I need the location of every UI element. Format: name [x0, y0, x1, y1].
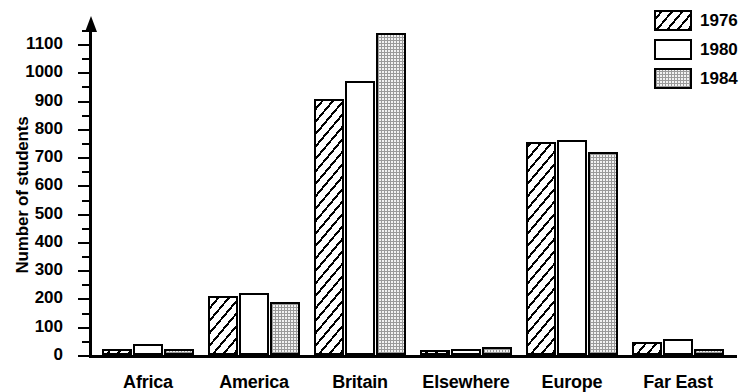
legend-label-1984: 1984 — [700, 69, 738, 89]
y-tick-minor-1050 — [82, 58, 90, 60]
y-tick-label-1000: 1000 — [25, 62, 63, 82]
y-tick-600: 600 — [78, 185, 90, 187]
legend-swatch-1976 — [654, 10, 692, 31]
bar-america-1976 — [208, 296, 238, 355]
legend-swatch-1980 — [654, 39, 692, 60]
y-tick-minor-650 — [82, 171, 90, 173]
y-tick-minor-550 — [82, 200, 90, 202]
y-tick-label-100: 100 — [35, 317, 63, 337]
bar-group-africa — [102, 14, 194, 357]
y-axis-title: Number of students — [13, 80, 33, 310]
y-tick-1000: 1000 — [78, 72, 90, 74]
y-tick-800: 800 — [78, 129, 90, 131]
bar-europe-1984 — [588, 152, 618, 355]
bar-elsewhere-1976 — [420, 350, 450, 355]
y-tick-label-400: 400 — [35, 232, 63, 252]
y-tick-700: 700 — [78, 157, 90, 159]
y-tick-200: 200 — [78, 298, 90, 300]
legend-label-1980: 1980 — [700, 40, 738, 60]
y-tick-minor-250 — [82, 284, 90, 286]
y-tick-900: 900 — [78, 101, 90, 103]
y-tick-label-800: 800 — [35, 119, 63, 139]
bar-elsewhere-1980 — [451, 349, 481, 355]
y-tick-minor-950 — [82, 86, 90, 88]
bar-group-europe — [526, 14, 618, 357]
bar-britain-1980 — [345, 81, 375, 355]
y-tick-minor-750 — [82, 143, 90, 145]
bar-far-east-1976 — [632, 342, 662, 355]
bar-elsewhere-1984 — [482, 347, 512, 355]
bar-africa-1976 — [102, 349, 132, 355]
y-tick-minor-850 — [82, 115, 90, 117]
y-tick-minor-450 — [82, 228, 90, 230]
y-tick-label-200: 200 — [35, 288, 63, 308]
legend-item-1976: 1976 — [654, 8, 739, 33]
y-tick-label-1100: 1100 — [26, 34, 63, 54]
bar-africa-1984 — [164, 349, 194, 355]
legend-item-1980: 1980 — [654, 37, 739, 62]
y-tick-label-0: 0 — [54, 345, 63, 365]
bar-america-1980 — [239, 293, 269, 355]
bar-group-elsewhere — [420, 14, 512, 357]
y-tick-minor-350 — [82, 256, 90, 258]
y-tick-1100: 1100 — [78, 44, 90, 46]
bar-britain-1976 — [314, 99, 344, 355]
legend-item-1984: 1984 — [654, 66, 739, 91]
y-tick-minor-50 — [82, 341, 90, 343]
y-tick-minor-150 — [82, 313, 90, 315]
bar-europe-1976 — [526, 142, 556, 355]
y-tick-label-900: 900 — [35, 91, 63, 111]
y-tick-300: 300 — [78, 270, 90, 272]
plot-area: 010020030040050060070080090010001100 Afr… — [89, 14, 737, 357]
y-tick-0: 0 — [78, 355, 90, 357]
y-tick-label-300: 300 — [35, 260, 63, 280]
legend-swatch-1984 — [654, 68, 692, 89]
legend-label-1976: 1976 — [700, 11, 738, 31]
bar-group-america — [208, 14, 300, 357]
bar-britain-1984 — [376, 33, 406, 355]
category-label-far-east: Far East — [610, 372, 743, 392]
bar-far-east-1980 — [663, 339, 693, 355]
y-tick-100: 100 — [78, 327, 90, 329]
bar-group-britain — [314, 14, 406, 357]
y-tick-500: 500 — [78, 214, 90, 216]
y-tick-minor-1150 — [82, 30, 90, 32]
y-tick-label-700: 700 — [35, 147, 63, 167]
bar-far-east-1984 — [694, 349, 724, 355]
y-tick-400: 400 — [78, 242, 90, 244]
bar-europe-1980 — [557, 140, 587, 355]
bar-africa-1980 — [133, 344, 163, 355]
legend: 197619801984 — [654, 8, 739, 95]
y-tick-label-500: 500 — [35, 204, 63, 224]
bar-america-1984 — [270, 302, 300, 355]
y-tick-label-600: 600 — [35, 175, 63, 195]
